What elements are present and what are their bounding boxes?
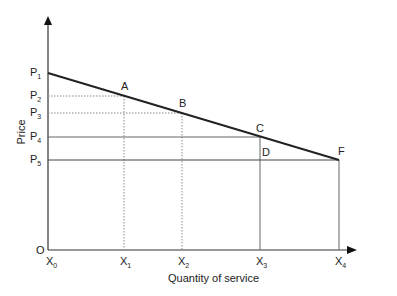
y-axis-arrow-icon bbox=[44, 16, 52, 25]
y-axis-title: Price bbox=[15, 119, 27, 144]
point-label-d: D bbox=[262, 147, 270, 158]
price-label-p3: P3 bbox=[30, 107, 41, 122]
point-label-a: A bbox=[121, 81, 128, 92]
quantity-label-x4: X4 bbox=[335, 256, 346, 271]
point-label-f: F bbox=[338, 146, 345, 157]
x-axis-arrow-icon bbox=[347, 246, 357, 254]
price-label-p4: P4 bbox=[30, 131, 41, 146]
demand-line bbox=[48, 73, 339, 160]
price-label-p2: P2 bbox=[30, 90, 41, 105]
price-label-p5: P5 bbox=[30, 154, 41, 169]
point-label-b: B bbox=[179, 98, 186, 109]
x-axis-title: Quantity of service bbox=[168, 273, 259, 284]
quantity-label-x1: X1 bbox=[120, 256, 131, 271]
quantity-label-x0: X0 bbox=[46, 256, 57, 271]
price-label-p1: P1 bbox=[30, 67, 41, 82]
origin-label: O bbox=[36, 245, 45, 256]
point-label-c: C bbox=[256, 123, 264, 134]
quantity-label-x3: X3 bbox=[256, 256, 267, 271]
quantity-label-x2: X2 bbox=[178, 256, 189, 271]
